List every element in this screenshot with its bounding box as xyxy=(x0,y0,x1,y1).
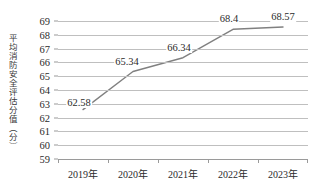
data-label: 62.58 xyxy=(66,97,92,108)
x-axis-tick-label: 2019年 xyxy=(68,166,98,181)
data-label: 65.34 xyxy=(114,56,140,67)
y-axis-tick-label: 67 xyxy=(40,43,51,54)
y-axis-tick-label: 63 xyxy=(40,98,51,109)
data-label: 68.4 xyxy=(219,13,239,24)
x-axis-tick-mark xyxy=(208,159,209,163)
y-axis-title: 平均消防安全评估分值（分） xyxy=(3,0,21,185)
x-axis-tick-mark xyxy=(307,159,308,163)
y-axis-tick-label: 69 xyxy=(40,16,51,27)
y-axis-tick-labels: 5960616263646566676869 xyxy=(24,21,54,159)
x-axis-tick-marks xyxy=(58,159,308,164)
data-label: 66.34 xyxy=(166,42,192,53)
gridline xyxy=(58,118,308,119)
x-axis-tick-mark xyxy=(158,159,159,163)
gridline xyxy=(58,76,308,77)
y-axis-tick-label: 68 xyxy=(40,29,51,40)
gridline xyxy=(58,35,308,36)
gridline xyxy=(58,90,308,91)
gridline xyxy=(58,145,308,146)
gridline xyxy=(58,62,308,63)
y-axis-tick-label: 64 xyxy=(40,85,51,96)
y-axis-tick-label: 62 xyxy=(40,112,51,123)
gridline xyxy=(58,104,308,105)
x-axis-tick-mark xyxy=(258,159,259,163)
x-axis-tick-labels: 2019年2020年2021年2022年2023年 xyxy=(58,166,308,186)
plot-area: 62.5865.3466.3468.468.57 xyxy=(58,21,308,159)
x-axis-tick-mark xyxy=(108,159,109,163)
series-line xyxy=(83,27,283,110)
data-label: 68.57 xyxy=(270,11,296,22)
x-axis-tick-label: 2021年 xyxy=(168,166,198,181)
y-axis-tick-label: 59 xyxy=(40,154,51,165)
x-axis-tick-label: 2020年 xyxy=(118,166,148,181)
x-axis-tick-label: 2022年 xyxy=(218,166,248,181)
x-axis-tick-label: 2023年 xyxy=(268,166,298,181)
x-axis-tick-mark xyxy=(58,159,59,163)
y-axis-tick-label: 61 xyxy=(40,126,51,137)
gridline xyxy=(58,131,308,132)
y-axis-tick-label: 60 xyxy=(40,140,51,151)
y-axis-tick-label: 66 xyxy=(40,57,51,68)
y-axis-tick-label: 65 xyxy=(40,71,51,82)
line-chart: 平均消防安全评估分值（分） 5960616263646566676869 62.… xyxy=(0,0,315,193)
